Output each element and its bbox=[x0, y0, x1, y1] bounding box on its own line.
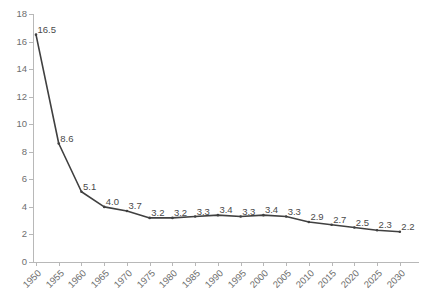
data-point-label: 3.4 bbox=[265, 205, 278, 215]
series-line bbox=[36, 35, 400, 232]
line-chart: 024681012141618 195019551960196519701975… bbox=[0, 0, 422, 301]
data-point-label: 4.0 bbox=[106, 196, 119, 206]
data-point-label: 3.3 bbox=[242, 206, 255, 216]
data-point-label: 16.5 bbox=[38, 24, 57, 34]
data-point-label: 2.2 bbox=[401, 221, 414, 231]
series-markers bbox=[35, 33, 401, 233]
plot-area bbox=[0, 0, 422, 301]
data-point-label: 2.9 bbox=[310, 212, 323, 222]
data-point-label: 2.3 bbox=[379, 220, 392, 230]
data-point-label: 2.5 bbox=[356, 217, 369, 227]
data-point-label: 8.6 bbox=[60, 133, 73, 143]
data-point-label: 3.7 bbox=[128, 201, 141, 211]
data-point-label: 3.4 bbox=[219, 205, 232, 215]
data-point-label: 2.7 bbox=[333, 214, 346, 224]
data-point-label: 3.2 bbox=[174, 207, 187, 217]
data-point-label: 3.3 bbox=[197, 206, 210, 216]
data-point-label: 3.2 bbox=[151, 207, 164, 217]
data-point-label: 5.1 bbox=[83, 181, 96, 191]
data-point-label: 3.3 bbox=[288, 206, 301, 216]
